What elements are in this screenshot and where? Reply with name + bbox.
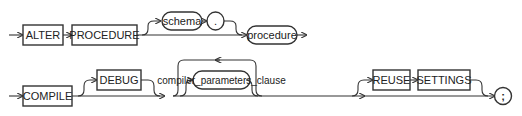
procedure-oval: procedure xyxy=(247,26,297,44)
dot-oval: . xyxy=(207,12,224,30)
svg-text:PROCEDURE: PROCEDURE xyxy=(69,29,139,41)
svg-text:compiler_parameters_clause: compiler_parameters_clause xyxy=(157,75,286,86)
row-alter-procedure: ALTER PROCEDURE schema . procedure xyxy=(9,12,306,45)
compiler-parameters-clause-oval: compiler_parameters_clause xyxy=(157,71,286,89)
svg-text:SETTINGS: SETTINGS xyxy=(416,74,471,86)
keyword-alter: ALTER xyxy=(23,25,63,45)
svg-text:;: ; xyxy=(501,90,505,102)
keyword-settings: SETTINGS xyxy=(416,70,471,90)
keyword-compile: COMPILE xyxy=(23,86,73,106)
keyword-debug: DEBUG xyxy=(97,70,141,90)
svg-text:.: . xyxy=(214,15,217,27)
svg-text:REUSE: REUSE xyxy=(373,74,411,86)
svg-text:COMPILE: COMPILE xyxy=(23,90,73,102)
semicolon-terminator: ; xyxy=(495,88,512,105)
syntax-diagram: ALTER PROCEDURE schema . procedure xyxy=(0,0,522,116)
keyword-reuse: REUSE xyxy=(373,70,411,90)
svg-text:DEBUG: DEBUG xyxy=(99,74,138,86)
svg-text:schema: schema xyxy=(163,15,202,27)
svg-text:ALTER: ALTER xyxy=(26,29,61,41)
keyword-procedure: PROCEDURE xyxy=(69,25,139,45)
svg-text:procedure: procedure xyxy=(247,29,297,41)
row-compile: COMPILE DEBUG compiler_parameters_clause… xyxy=(9,60,512,106)
schema-oval: schema xyxy=(162,12,202,30)
